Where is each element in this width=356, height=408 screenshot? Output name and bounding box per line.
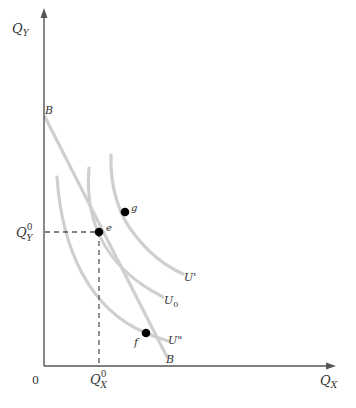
diagram-canvas: QY QX 0 Q0X Q0Y B B U' U0 U" e g f bbox=[0, 0, 356, 408]
origin-label: 0 bbox=[32, 374, 39, 387]
curve-label-u-double-prime: U" bbox=[168, 334, 182, 347]
budget-line bbox=[45, 117, 167, 357]
point-g bbox=[121, 208, 130, 217]
point-e bbox=[95, 228, 104, 237]
x-axis-arrow-icon bbox=[326, 363, 336, 370]
budget-label-bottom: B bbox=[165, 353, 174, 366]
point-label-e: e bbox=[106, 222, 112, 233]
curve-label-u-prime: U' bbox=[184, 271, 196, 284]
x-axis-label: QX bbox=[320, 373, 338, 390]
curves bbox=[45, 117, 183, 357]
y-axis-label: QY bbox=[12, 21, 30, 38]
x-tick-label: Q0X bbox=[90, 369, 107, 390]
point-label-f: f bbox=[133, 336, 140, 349]
point-f bbox=[142, 329, 151, 338]
y-tick-label: Q0Y bbox=[16, 222, 33, 243]
point-label-g: g bbox=[131, 202, 137, 213]
axes bbox=[41, 8, 337, 370]
curve-label-u0: U0 bbox=[164, 294, 178, 309]
budget-label-top: B bbox=[44, 104, 53, 117]
y-axis-arrow-icon bbox=[41, 8, 48, 18]
